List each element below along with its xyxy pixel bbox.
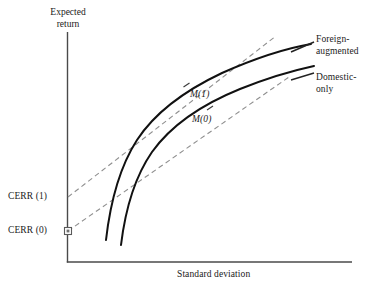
chart-figure: Expected return Standard deviation CERR … — [0, 0, 378, 290]
leader-line-domestic-only — [291, 73, 314, 80]
annotation-cerr-0: CERR (0) — [8, 225, 47, 237]
curve-label-foreign-augmented-line-1: Foreign- — [316, 34, 378, 46]
curve-label-foreign-augmented-line-2: augmented — [316, 46, 378, 58]
annotation-cerr-1: CERR (1) — [8, 191, 47, 203]
cal-line-foreign-augmented — [68, 36, 276, 197]
cal-line-domestic-only — [68, 77, 289, 231]
curve-label-domestic-only-line-2: only — [316, 84, 378, 96]
curve-domestic-only — [121, 66, 314, 245]
x-axis-title: Standard deviation — [177, 269, 250, 281]
curve-foreign-augmented — [106, 44, 311, 240]
tangency-marker-m0 — [207, 106, 213, 110]
curve-label-domestic-only-line-1: Domestic- — [316, 72, 378, 84]
curve-label-domestic-only: Domestic- only — [316, 72, 378, 95]
annotation-m-0: M(0) — [192, 114, 211, 126]
cerr0-axis-marker-center — [67, 230, 70, 233]
y-axis-title-line-1: Expected — [30, 6, 106, 18]
tangency-marker-m1 — [184, 83, 190, 87]
y-axis-title: Expected return — [30, 6, 106, 30]
curve-label-foreign-augmented: Foreign- augmented — [316, 34, 378, 57]
y-axis-title-line-2: return — [30, 18, 106, 30]
annotation-m-1: M(1) — [190, 89, 209, 101]
